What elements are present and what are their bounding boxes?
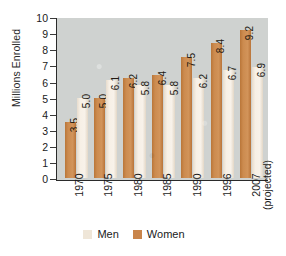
bar-group-2007: 9.26.9 (240, 18, 263, 178)
legend-item-women: Women (133, 228, 185, 240)
bar-men-1980: 5.8 (135, 85, 146, 179)
y-axis-title: Millions Enrolled (10, 8, 22, 128)
x-axis-tick-1985: 1985 (162, 173, 173, 196)
x-axis-group-2007: 2007(projected) (240, 183, 263, 229)
bar-men-1970: 5.0 (77, 98, 88, 179)
x-axis-group-1985: 1985 (151, 183, 174, 229)
legend-swatch-men (83, 230, 92, 239)
x-axis-group-1970: 1970 (62, 183, 85, 229)
bar-women-1985: 6.4 (152, 75, 163, 178)
y-axis-tickmark-6 (50, 83, 56, 84)
y-axis-tick-4: 4 (42, 110, 48, 120)
bar-value-label: 6.9 (257, 63, 267, 78)
bar-value-label: 5.8 (141, 81, 151, 96)
x-axis-group-1996: 1996 (210, 183, 233, 229)
y-axis-tick-1: 1 (42, 158, 48, 168)
legend-swatch-women (133, 230, 142, 239)
y-axis-tickmark-8 (50, 50, 56, 51)
bar-group-1996: 8.46.7 (211, 18, 234, 178)
x-axis-group-1990: 1990 (181, 183, 204, 229)
y-axis-tick-5: 5 (42, 94, 48, 104)
bar-value-label: 8.4 (216, 39, 226, 54)
bar-men-1975: 6.1 (106, 80, 117, 178)
bar-women-1990: 7.5 (181, 57, 192, 178)
bar-group-1975: 5.06.1 (94, 18, 117, 178)
legend-label-women: Women (147, 228, 185, 240)
x-axis-tick-1980: 1980 (133, 173, 144, 196)
y-axis-tickmark-1 (50, 163, 56, 164)
bar-women-1975: 5.0 (94, 98, 105, 179)
bar-value-label: 5.8 (170, 81, 180, 96)
y-axis-tickmark-2 (50, 147, 56, 148)
y-axis-tick-6: 6 (42, 78, 48, 88)
legend-item-men: Men (83, 228, 118, 240)
bar-series-container: 3.55.05.06.16.25.86.45.87.56.28.46.79.26… (59, 18, 268, 178)
y-axis-tickmark-10 (50, 18, 56, 19)
y-axis-tick-0: 0 (42, 174, 48, 184)
bar-value-label: 6.2 (199, 74, 209, 89)
y-axis-tickmark-4 (50, 115, 56, 116)
y-axis-tickmark-3 (50, 131, 56, 132)
y-axis-tickmark-5 (50, 99, 56, 100)
x-axis-group-1975: 1975 (92, 183, 115, 229)
y-axis-tick-labels: 109876543210 (26, 12, 48, 188)
bar-men-1996: 6.7 (223, 70, 234, 178)
bar-group-1970: 3.55.0 (65, 18, 88, 178)
bar-value-label: 6.4 (158, 71, 168, 86)
bar-women-1980: 6.2 (123, 78, 134, 178)
x-axis-tick-1990: 1990 (192, 173, 203, 196)
y-axis-tick-3: 3 (42, 126, 48, 136)
bar-women-1970: 3.5 (65, 122, 76, 178)
y-axis-tickmark-9 (50, 34, 56, 35)
bar-value-label: 7.5 (187, 53, 197, 68)
chart-legend: MenWomen (0, 228, 286, 240)
x-axis-tick-1975: 1975 (103, 173, 114, 196)
y-axis-tick-9: 9 (42, 29, 48, 39)
bar-women-1996: 8.4 (211, 43, 222, 179)
legend-label-men: Men (97, 228, 118, 240)
bar-value-label: 9.2 (245, 26, 255, 41)
y-axis-tick-10: 10 (36, 13, 48, 23)
y-axis-tick-8: 8 (42, 45, 48, 55)
bar-group-1980: 6.25.8 (123, 18, 146, 178)
x-axis-note-2007: (projected) (262, 160, 273, 210)
x-axis-tick-labels: 1970197519801985199019962007(projected) (56, 183, 268, 229)
bar-men-1985: 5.8 (164, 85, 175, 179)
x-axis-tick-1970: 1970 (74, 173, 85, 196)
chart-figure: Millions Enrolled 109876543210 3.55.05.0… (0, 0, 286, 256)
y-axis-tick-2: 2 (42, 142, 48, 152)
bar-women-2007: 9.2 (240, 30, 251, 178)
plot-area: 3.55.05.06.16.25.86.45.87.56.28.46.79.26… (56, 18, 268, 181)
bar-men-1990: 6.2 (193, 78, 204, 178)
y-axis-tick-7: 7 (42, 61, 48, 71)
bar-group-1985: 6.45.8 (152, 18, 175, 178)
x-axis-group-1980: 1980 (121, 183, 144, 229)
bar-group-1990: 7.56.2 (181, 18, 204, 178)
y-axis-tickmark-0 (50, 179, 56, 180)
y-axis-tickmark-7 (50, 66, 56, 67)
bar-value-label: 6.1 (111, 76, 121, 91)
bar-value-label: 5.0 (82, 93, 92, 108)
bar-value-label: 6.7 (228, 66, 238, 81)
x-axis-tick-1996: 1996 (222, 173, 233, 196)
